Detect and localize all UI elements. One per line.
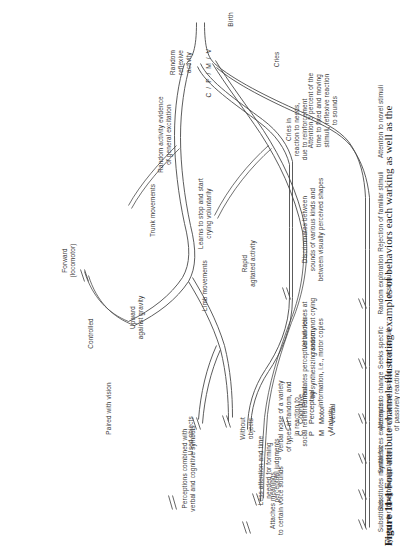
legend-key: V xyxy=(328,424,339,436)
axis-label-birth: Birth xyxy=(226,1,234,37)
legend-label: Cognitive xyxy=(296,390,307,424)
legend-key: M xyxy=(317,424,328,436)
figure-caption: Figure 11-1 Four attribute channels illu… xyxy=(382,106,395,546)
legend-row: C Cognitive xyxy=(296,390,307,436)
legend-row: V Verbal xyxy=(328,390,339,436)
channel-node-label: Discriminates between sounds of various … xyxy=(300,165,324,293)
legend-label: Motor xyxy=(317,390,328,424)
channel-node-label: Forward (locomotor) xyxy=(60,229,76,291)
legend-row: M Motor xyxy=(317,390,328,436)
legend-key: C xyxy=(296,424,307,436)
channel-node-label: Rapid agitated activity xyxy=(240,235,256,291)
channel-node-label: Controlled xyxy=(86,305,94,361)
channel-node-label: Paired with vision xyxy=(104,371,112,445)
channel-node-label: Less attention and time needed for formi… xyxy=(256,427,280,513)
channel-node-label: Learns to stop and start crying voluntar… xyxy=(196,161,212,265)
legend-label: Verbal xyxy=(328,390,339,424)
channel-node-label: Attention 5 percent of the time to fixed… xyxy=(306,59,338,161)
channel-marks: C / P / M / V xyxy=(204,51,212,97)
legend-row: P Perceptual xyxy=(307,390,318,436)
legend: C Cognitive P Perceptual M Motor V Verba… xyxy=(296,390,338,436)
channel-node-label: Upward against gravity xyxy=(128,281,144,353)
channel-node-label: Cries xyxy=(272,39,280,79)
legend-label: Perceptual xyxy=(307,390,318,424)
legend-key: P xyxy=(307,424,318,436)
channel-node-label: Without objects xyxy=(238,403,254,453)
channel-node-label: Perceptions combined with verbal and cog… xyxy=(180,415,196,521)
channel-node-label: Trunk movements xyxy=(148,171,156,249)
channel-node-label: Random activity evidence of general exci… xyxy=(156,75,172,193)
channel-node-label: Cries in reaction to needs, due to reinf… xyxy=(284,81,308,177)
figure-number: Figure 11-1 xyxy=(382,492,394,546)
figure-caption-text: Four attribute channels illustrating exa… xyxy=(382,106,394,489)
